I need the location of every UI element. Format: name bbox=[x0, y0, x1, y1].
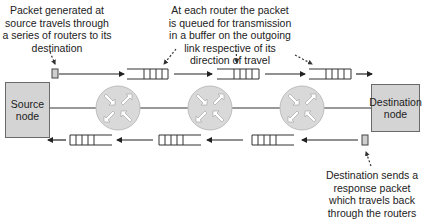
return-queue-1 bbox=[70, 135, 112, 145]
return-path bbox=[48, 135, 368, 145]
router-1 bbox=[96, 86, 140, 130]
response-packet-icon bbox=[362, 135, 368, 145]
source-packet-icon bbox=[52, 69, 58, 78]
forward-queue-1 bbox=[127, 69, 168, 79]
return-queue-3 bbox=[252, 135, 294, 145]
forward-queue-3 bbox=[309, 69, 351, 79]
return-queue-2 bbox=[159, 135, 201, 145]
router-2 bbox=[188, 86, 232, 130]
forward-queue-2 bbox=[217, 69, 259, 79]
forward-path bbox=[52, 69, 372, 79]
router-3 bbox=[280, 86, 324, 130]
